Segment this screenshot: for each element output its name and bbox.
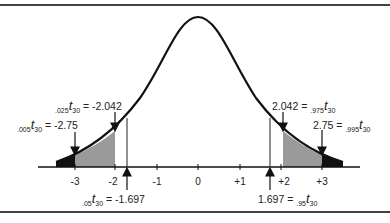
- right-gray-tail: [283, 131, 322, 167]
- tick-label: -3: [71, 177, 80, 187]
- label-005: .005t30 = -2.75: [17, 118, 78, 133]
- label-05: .05t30 = -1.697: [82, 192, 145, 207]
- tick-label: 0: [195, 177, 201, 187]
- label-95: 1.697 = .95t30: [258, 192, 317, 207]
- tick-label: -1: [153, 177, 162, 187]
- tick-label: +2: [278, 177, 289, 187]
- density-curve: [56, 17, 343, 162]
- label-025: .025t30 = -2.042: [55, 99, 122, 114]
- label-995: 2.75 = .995t30: [313, 118, 370, 133]
- tick-label: +3: [316, 177, 327, 187]
- label-975: 2.042 = .975t30: [272, 99, 335, 114]
- left-gray-tail: [75, 131, 115, 167]
- tick-label: -2: [109, 177, 118, 187]
- tick-label: +1: [234, 177, 245, 187]
